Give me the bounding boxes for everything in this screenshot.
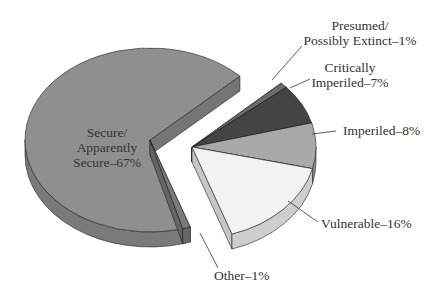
label-critical: Critically Imperiled–7% <box>308 60 392 90</box>
label-extinct-line1: Presumed/ <box>300 18 420 33</box>
label-extinct-line2: Possibly Extinct–1% <box>300 33 420 48</box>
label-secure-line1: Secure/ <box>52 125 162 140</box>
leader-other <box>200 233 218 268</box>
leader-critical <box>290 79 310 88</box>
label-secure-line3: Secure–67% <box>52 155 162 170</box>
label-secure-line2: Apparently <box>52 140 162 155</box>
label-vulnerable: Vulnerable–16% <box>321 216 412 231</box>
label-other: Other–1% <box>214 268 269 283</box>
leader-imperiled <box>312 131 336 134</box>
leader-extinct <box>272 46 302 80</box>
label-critical-line1: Critically <box>308 60 392 75</box>
label-critical-line2: Imperiled–7% <box>308 75 392 90</box>
label-secure: Secure/ Apparently Secure–67% <box>52 125 162 170</box>
label-imperiled: Imperiled–8% <box>343 123 420 138</box>
label-extinct: Presumed/ Possibly Extinct–1% <box>300 18 420 48</box>
